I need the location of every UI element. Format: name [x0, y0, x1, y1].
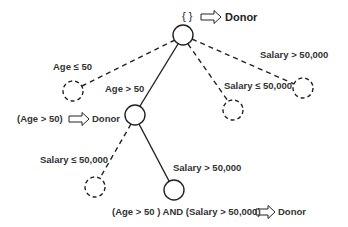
leaf-node2-salary-le: [85, 177, 105, 197]
leaf-result-label: Donor: [278, 207, 306, 217]
edge-label-root-salary-le: Salary ≤ 50,000: [224, 81, 292, 91]
edge-label-node2-salary-gt: Salary > 50,000: [173, 163, 241, 173]
leaf-root-salary-gt: [293, 78, 313, 98]
edge-node2-salary-gt: [139, 124, 169, 181]
edge-label-age-le-50: Age ≤ 50: [53, 62, 92, 72]
root-result-label: Donor: [225, 12, 257, 23]
node-age-gt-50: [125, 105, 145, 125]
edge-root-salary-gt: [192, 39, 294, 84]
double-arrow-right-icon: [69, 113, 89, 126]
root-set-label: { }: [182, 11, 192, 22]
edge-label-root-salary-gt: Salary > 50,000: [260, 50, 328, 60]
leaf-age-le-50: [63, 81, 83, 101]
node2-rule-label: (Age > 50): [17, 114, 63, 124]
edge-label-age-gt-50: Age > 50: [105, 84, 144, 94]
edge-root-salary-le: [188, 44, 228, 101]
root-node: [173, 25, 193, 45]
edge-node2-salary-le: [100, 124, 131, 178]
edge-age-le-50: [82, 40, 175, 86]
leaf-node2-salary-gt: [164, 180, 184, 200]
leaf-root-salary-le: [223, 100, 243, 120]
double-arrow-right-icon: [201, 11, 221, 24]
node2-result-label: Donor: [92, 114, 120, 124]
edge-age-gt-50: [140, 44, 178, 106]
edge-label-node2-salary-le: Salary ≤ 50,000: [40, 155, 108, 165]
decision-tree-diagram: { } Donor Age ≤ 50 Age > 50 Salary > 50,…: [0, 0, 348, 227]
leaf-rule-label: (Age > 50 ) AND (Salary > 50,000): [112, 207, 261, 217]
